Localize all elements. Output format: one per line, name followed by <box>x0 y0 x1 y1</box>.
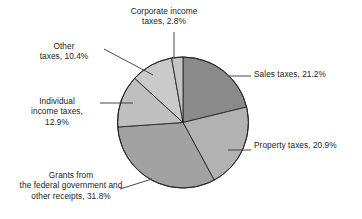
property-label-text: Property taxes, 20.9% <box>254 140 337 150</box>
corporate-label-line1: Corporate income <box>131 6 198 16</box>
individual-label-line2: income taxes, <box>31 106 83 116</box>
other-label-line1: Other <box>53 41 74 51</box>
grants-label-line2: the federal government and <box>20 180 123 190</box>
pie-chart: Corporate incometaxes, 2.8% Sales taxes,… <box>0 0 362 219</box>
pie-slices-group <box>118 57 249 188</box>
individual-label-line3: 12.9% <box>45 117 69 127</box>
slice-label-property-taxes: Property taxes, 20.9% <box>254 140 360 150</box>
slice-label-sales-taxes: Sales taxes, 21.2% <box>254 69 360 79</box>
grants-label-line1: Grants from <box>49 170 93 180</box>
slice-label-other-taxes: Othertaxes, 10.4% <box>26 41 102 62</box>
slice-label-grants: Grants fromthe federal government andoth… <box>1 170 141 201</box>
other-label-line2: taxes, 10.4% <box>40 51 89 61</box>
leader-line-other-taxes <box>104 49 153 75</box>
sales-label-text: Sales taxes, 21.2% <box>254 69 326 79</box>
grants-label-line3: other receipts, 31.8% <box>31 191 110 201</box>
corporate-label-line2: taxes, 2.8% <box>142 16 186 26</box>
slice-label-individual-income-taxes: Individualincome taxes,12.9% <box>14 96 100 127</box>
slice-label-corporate-income-taxes: Corporate incometaxes, 2.8% <box>116 6 212 27</box>
individual-label-line1: Individual <box>39 96 75 106</box>
